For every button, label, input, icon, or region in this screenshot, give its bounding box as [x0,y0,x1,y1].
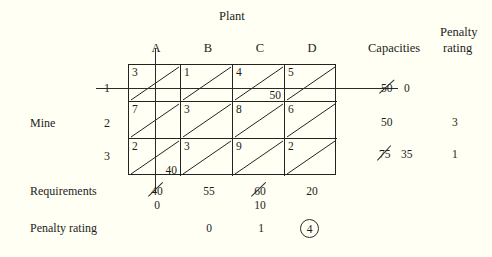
column-header-c: C [252,42,268,55]
row-penalty-2: 3 [452,116,458,128]
mine-group-label: Mine [30,117,55,130]
requirement-b: 55 [200,185,218,197]
column-penalty-c: 1 [252,222,270,234]
capacity-row3-new: 35 [401,148,413,160]
grid-cell-d3[interactable]: 2 [285,139,337,176]
column-header-b: B [200,42,216,55]
requirement-c-new: 10 [250,199,270,211]
requirements-label: Requirements [30,185,97,198]
allocation-c1: 50 [270,88,282,102]
cost-b2: 3 [184,102,190,116]
grid-cell-c1[interactable]: 4 50 [233,65,285,102]
column-a-crossout-line [155,48,156,193]
grid-cell-b2[interactable]: 3 [181,102,233,139]
cost-d2: 6 [288,102,294,116]
requirement-d: 20 [303,185,321,197]
row-1-crossout-line [96,88,398,89]
row-label-2: 2 [104,117,110,130]
cost-c2: 8 [236,102,242,116]
cost-d3: 2 [288,139,294,153]
capacities-header: Capacities [368,42,420,55]
cost-c3: 9 [236,139,242,153]
cost-b3: 3 [184,139,190,153]
row-label-3: 3 [104,150,110,163]
grid-cell-b1[interactable]: 1 [181,65,233,102]
row-penalty-3: 1 [452,148,458,160]
grid-cell-c2[interactable]: 8 [233,102,285,139]
penalty-rating-header-line2: rating [443,42,472,55]
cost-a3: 2 [132,139,138,153]
cost-a2: 7 [132,102,138,116]
column-header-d: D [304,42,320,55]
grid-cell-d1[interactable]: 5 [285,65,337,102]
penalty-rating-header-line1: Penalty [440,26,478,39]
grid-cell-d2[interactable]: 6 [285,102,337,139]
column-penalty-b: 0 [200,222,218,234]
capacity-row2: 50 [381,116,393,128]
capacity-row1-new: 0 [404,82,410,94]
cost-d1: 5 [288,65,294,79]
column-header-a: A [148,42,164,55]
grid-cell-c3[interactable]: 9 [233,139,285,176]
allocation-a3: 40 [166,163,178,176]
grid-cell-b3[interactable]: 3 [181,139,233,176]
cost-a1: 3 [132,65,138,79]
requirement-a-new: 0 [148,199,166,211]
plant-title: Plant [219,10,245,23]
vogel-approximation-tableau: Plant A B C D Capacities Penalty rating … [0,0,492,257]
cost-c1: 4 [236,65,242,79]
transportation-cost-grid: 3 1 4 50 5 7 3 [128,64,336,175]
penalty-rating-row-label: Penalty rating [30,222,97,235]
cost-b1: 1 [184,65,190,79]
column-penalty-d-selected: 4 [300,219,319,238]
